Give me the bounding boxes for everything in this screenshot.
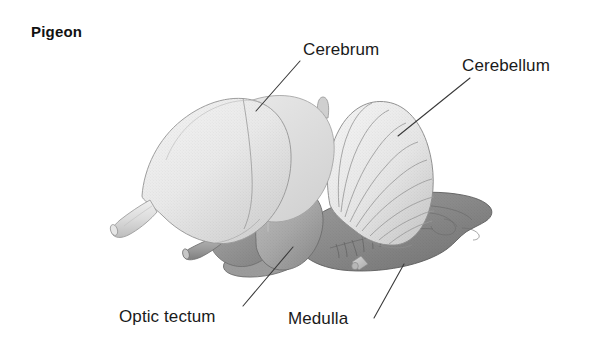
page-title: Pigeon (31, 23, 82, 40)
label-cerebrum: Cerebrum (303, 40, 379, 60)
label-cerebellum: Cerebellum (462, 56, 550, 76)
leader-line-medulla (374, 264, 404, 318)
leader-line-cerebellum (398, 78, 470, 136)
olfactory-bulb-stalk (112, 200, 157, 237)
label-optic-tectum: Optic tectum (119, 307, 216, 327)
pigeon-brain-illustration (0, 0, 591, 362)
figure-canvas: Pigeon Cerebrum Cerebellum Optic tectum … (0, 0, 591, 362)
label-medulla: Medulla (288, 309, 348, 329)
